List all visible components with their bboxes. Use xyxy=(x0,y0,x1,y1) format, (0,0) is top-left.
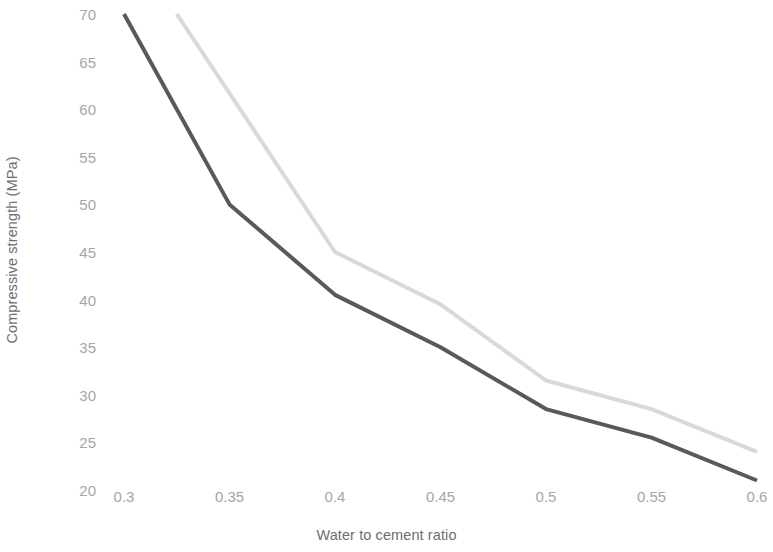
x-axis-title-label: Water to cement ratio xyxy=(316,527,456,543)
chart-container: Compressive strength (MPa) 7065605550454… xyxy=(0,0,773,552)
x-axis-tick-label: 0.4 xyxy=(325,489,346,504)
x-axis-tick-label: 0.6 xyxy=(747,489,768,504)
x-axis-tick-labels: 0.30.350.40.450.50.550.6 xyxy=(0,0,773,552)
x-axis-tick-label: 0.5 xyxy=(536,489,557,504)
x-axis-tick-label: 0.3 xyxy=(114,489,135,504)
x-axis-tick-label: 0.45 xyxy=(426,489,455,504)
x-axis-tick-label: 0.35 xyxy=(215,489,244,504)
x-axis-tick-label: 0.55 xyxy=(637,489,666,504)
x-axis-title: Water to cement ratio xyxy=(0,527,773,543)
